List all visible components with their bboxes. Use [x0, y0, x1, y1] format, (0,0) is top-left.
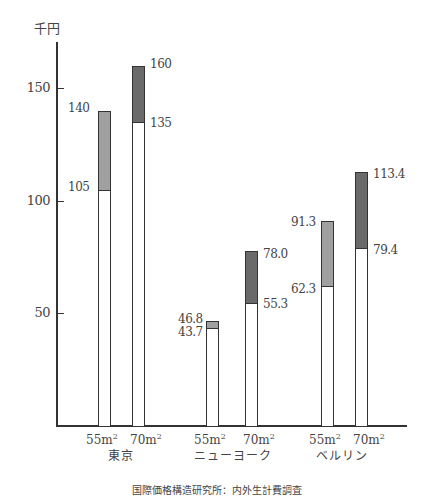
x-label-city-berlin: ベルリン	[316, 446, 368, 463]
x-label-city-newyork: ニューヨーク	[194, 446, 272, 463]
y-tick-label-150: 150	[27, 81, 50, 95]
bar-berlin-55	[321, 221, 334, 427]
x-label-size: 70m2	[353, 432, 385, 447]
bar-segment-upper	[356, 173, 367, 249]
bar-newyork-55	[206, 321, 219, 427]
bar-segment-upper	[322, 222, 333, 287]
value-label: 79.4	[373, 244, 398, 257]
value-label: 62.3	[291, 283, 316, 296]
x-label-size: 55m2	[86, 432, 118, 447]
value-label: 160	[150, 58, 171, 71]
value-label: 135	[150, 117, 171, 130]
bar-segment-upper	[246, 252, 257, 304]
value-label: 105	[68, 181, 89, 194]
y-tick-50	[58, 313, 64, 314]
bar-tokyo-55	[98, 111, 111, 427]
x-label-size: 70m2	[243, 432, 275, 447]
x-label-size: 55m2	[194, 432, 226, 447]
source-note: 国際価格構造研究所：内外生計費調査	[0, 482, 434, 497]
x-label-city-tokyo: 東京	[108, 446, 134, 463]
y-axis-unit: 千円	[34, 18, 60, 37]
x-label-size: 70m2	[130, 432, 162, 447]
bar-segment-upper	[133, 67, 144, 123]
bar-segment-upper	[207, 322, 218, 329]
value-label: 91.3	[291, 216, 316, 229]
y-axis	[56, 42, 58, 427]
value-label: 78.0	[263, 248, 288, 261]
x-label-size: 55m2	[309, 432, 341, 447]
bar-berlin-70	[355, 172, 368, 427]
y-tick-label-100: 100	[27, 194, 50, 208]
value-label: 113.4	[373, 168, 405, 181]
value-label: 140	[68, 102, 89, 115]
bar-newyork-70	[245, 251, 258, 427]
y-tick-label-50: 50	[34, 306, 50, 320]
bar-tokyo-70	[132, 66, 145, 427]
y-tick-100	[58, 201, 64, 202]
value-label: 55.3	[263, 298, 288, 311]
value-label: 43.7	[178, 326, 203, 339]
y-tick-150	[58, 88, 64, 89]
bar-segment-upper	[99, 112, 110, 191]
